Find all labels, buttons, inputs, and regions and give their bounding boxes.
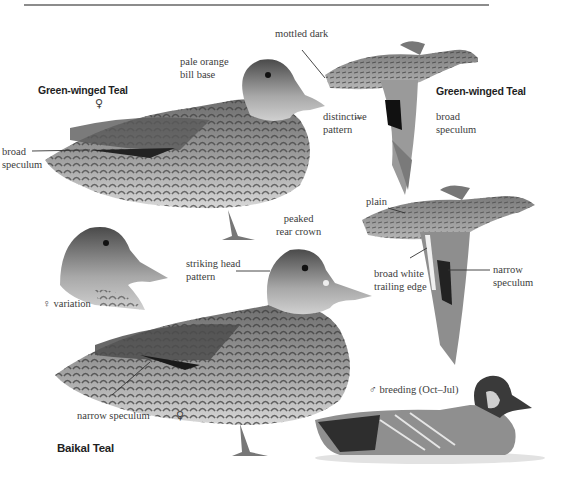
label-male-breeding: ♂ breeding (Oct–Jul) — [369, 384, 459, 397]
title-green-winged-teal-flight: Green-winged Teal — [436, 85, 526, 97]
title-green-winged-teal: Green-winged Teal — [38, 84, 128, 96]
label-distinctive-pattern: distinctive pattern — [323, 111, 367, 136]
label-broad-speculum-left: broad speculum — [2, 146, 42, 171]
label-pale-orange-bill-base: pale orange bill base — [180, 56, 229, 81]
label-broad-speculum-flight: broad speculum — [436, 111, 476, 136]
label-plain: plain — [366, 196, 387, 209]
label-broad-white-trailing-edge: broad white trailing edge — [374, 268, 427, 293]
label-female-variation: ♀ variation — [43, 298, 91, 311]
label-peaked-rear-crown: peaked rear crown — [276, 213, 321, 238]
label-narrow-speculum-flight: narrow speculum — [493, 264, 533, 289]
label-narrow-speculum-standing: narrow speculum — [77, 410, 150, 423]
label-mottled-dark: mottled dark — [275, 28, 328, 41]
label-striking-head-pattern: striking head pattern — [186, 258, 241, 283]
title-baikal-teal: Baikal Teal — [57, 442, 114, 454]
female-symbol-gwt: ♀ — [95, 97, 103, 110]
female-symbol-baikal: ♀ — [176, 409, 184, 422]
